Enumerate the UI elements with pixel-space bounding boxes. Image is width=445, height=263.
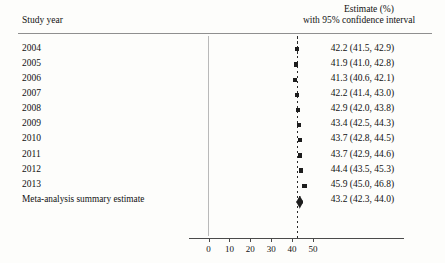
header-divider-rule xyxy=(18,33,432,34)
forest-row: 200541.9 (41.0, 42.8) xyxy=(0,57,445,72)
x-axis-tick xyxy=(292,238,293,242)
column-header-study-year: Study year xyxy=(22,15,63,25)
x-axis-tick xyxy=(250,238,251,242)
row-label-year: 2005 xyxy=(22,58,41,68)
forest-row: Meta-analysis summary estimate43.2 (42.3… xyxy=(0,193,445,208)
forest-plot: Study year Estimate (%) with 95% confide… xyxy=(0,0,445,263)
estimate-ci-text: 43.7 (42.8, 44.5) xyxy=(285,133,440,143)
estimate-ci-text: 42.2 (41.4, 43.0) xyxy=(285,88,440,98)
forest-row: 201244.4 (43.5, 45.3) xyxy=(0,163,445,178)
estimate-ci-text: 41.3 (40.6, 42.1) xyxy=(285,73,440,83)
x-axis-tick-label: 30 xyxy=(267,244,276,254)
estimate-ci-text: 41.9 (41.0, 42.8) xyxy=(285,58,440,68)
estimate-ci-text: 45.9 (45.0, 46.8) xyxy=(285,179,440,189)
forest-row: 201345.9 (45.0, 46.8) xyxy=(0,178,445,193)
row-label-year: 2004 xyxy=(22,43,41,53)
forest-row: 200742.2 (41.4, 43.0) xyxy=(0,87,445,102)
estimate-ci-text: 43.2 (42.3, 44.0) xyxy=(285,194,440,204)
forest-row: 201043.7 (42.8, 44.5) xyxy=(0,132,445,147)
x-axis-tick xyxy=(209,238,210,242)
x-axis-line xyxy=(189,238,404,239)
column-header-estimate-line2: with 95% confidence interval xyxy=(279,15,439,25)
estimate-ci-text: 43.4 (42.5, 44.3) xyxy=(285,118,440,128)
estimate-ci-text: 42.9 (42.0, 43.8) xyxy=(285,103,440,113)
row-label-year: 2013 xyxy=(22,179,41,189)
x-axis-tick-label: 50 xyxy=(309,244,318,254)
forest-row: 201143.7 (42.9, 44.6) xyxy=(0,148,445,163)
row-label-year: 2007 xyxy=(22,88,41,98)
row-label-year: 2010 xyxy=(22,133,41,143)
estimate-ci-text: 43.7 (42.9, 44.6) xyxy=(285,149,440,159)
row-label-year: 2012 xyxy=(22,164,41,174)
estimate-ci-text: 42.2 (41.5, 42.9) xyxy=(285,43,440,53)
forest-row: 200842.9 (42.0, 43.8) xyxy=(0,102,445,117)
column-header-estimate-line1: Estimate (%) xyxy=(299,4,439,14)
x-axis-tick-label: 0 xyxy=(206,244,211,254)
x-axis-tick xyxy=(313,238,314,242)
x-axis-tick xyxy=(271,238,272,242)
forest-row: 200943.4 (42.5, 44.3) xyxy=(0,117,445,132)
x-axis-tick-label: 20 xyxy=(246,244,255,254)
row-label-year: 2011 xyxy=(22,149,41,159)
row-label-year: 2009 xyxy=(22,118,41,128)
row-label-year: 2008 xyxy=(22,103,41,113)
estimate-ci-text: 44.4 (43.5, 45.3) xyxy=(285,164,440,174)
row-label-year: 2006 xyxy=(22,73,41,83)
forest-row: 200442.2 (41.5, 42.9) xyxy=(0,42,445,57)
forest-row: 200641.3 (40.6, 42.1) xyxy=(0,72,445,87)
row-label-summary: Meta-analysis summary estimate xyxy=(22,194,144,204)
x-axis-tick xyxy=(229,238,230,242)
x-axis-tick-label: 40 xyxy=(288,244,297,254)
x-axis-tick-label: 10 xyxy=(225,244,234,254)
